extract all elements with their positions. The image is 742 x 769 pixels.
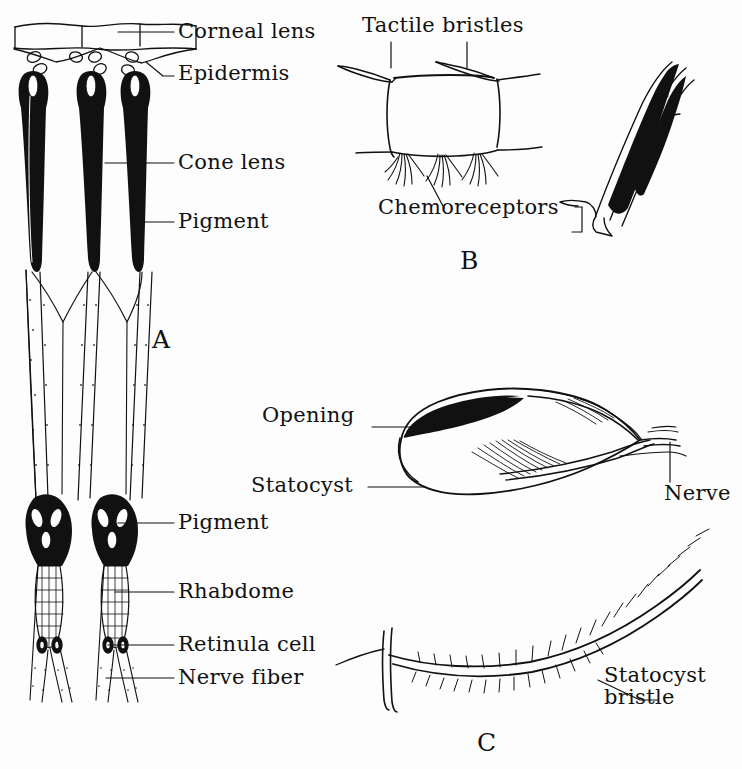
rhabdome-left — [35, 566, 63, 653]
label-pigment-upper: Pigment — [178, 210, 269, 234]
label-corneal-lens: Corneal lens — [178, 20, 316, 44]
label-chemoreceptors: Chemoreceptors — [378, 196, 559, 220]
chemoreceptor-tuft-1 — [385, 153, 424, 186]
ommatidium-middle — [77, 71, 107, 272]
chemoreceptor-tuft-3 — [462, 153, 498, 186]
label-statocyst-bristle: Statocyst bristle — [604, 664, 706, 708]
lower-pigment-right — [91, 494, 138, 566]
label-cone-lens: Cone lens — [178, 151, 286, 175]
label-retinula-cell: Retinula cell — [178, 633, 316, 657]
cuticle-right-extension — [497, 74, 542, 150]
label-pigment-lower: Pigment — [178, 511, 269, 535]
label-epidermis: Epidermis — [178, 62, 290, 86]
ommatidium-left — [19, 71, 49, 272]
label-statocyst-bristle-line1: Statocyst — [604, 664, 706, 686]
label-opening: Opening — [262, 404, 354, 428]
cuticle-segment — [387, 75, 500, 157]
chemoreceptor-section — [560, 62, 694, 236]
label-nerve: Nerve — [664, 482, 731, 506]
ommatidium-right — [121, 71, 151, 272]
corneal-lens-shape — [14, 23, 196, 50]
panel-letter-a: A — [152, 325, 170, 354]
label-tactile-bristles: Tactile bristles — [362, 14, 524, 38]
cuticle-left-extension — [356, 152, 392, 153]
retinula-shafts — [26, 270, 152, 500]
tactile-bristle-left — [338, 66, 396, 82]
rhabdome-right — [101, 566, 129, 653]
bristle-barbs-lower — [412, 643, 603, 693]
lower-pigment-left — [25, 494, 72, 566]
label-rhabdome: Rhabdome — [178, 580, 294, 604]
panel-a-drawing — [14, 23, 196, 702]
chemoreceptor-tuft-2 — [426, 154, 462, 187]
anatomy-illustration — [0, 0, 742, 769]
panel-letter-b: B — [460, 246, 478, 275]
label-nerve-fiber: Nerve fiber — [178, 666, 304, 690]
figure-canvas: Corneal lens Epidermis Cone lens Pigment… — [0, 0, 742, 769]
label-statocyst-bristle-line2: bristle — [604, 686, 706, 708]
panel-letter-c: C — [477, 728, 496, 757]
epidermis-shape — [14, 48, 196, 76]
label-statocyst: Statocyst — [251, 474, 353, 498]
